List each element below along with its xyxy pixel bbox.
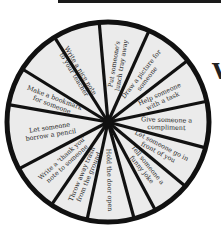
wedge-label: Give someone acompliment (141, 115, 193, 132)
kindness-spinner-wheel[interactable]: Put someone'slunch tray awayDraw a pictu… (0, 0, 221, 237)
wheel-hub (103, 117, 113, 127)
wedge-label: Hold the door open (105, 148, 115, 211)
wedge-label-line: Hold the door open (105, 148, 115, 211)
wedge-label-line: compliment (147, 123, 186, 132)
